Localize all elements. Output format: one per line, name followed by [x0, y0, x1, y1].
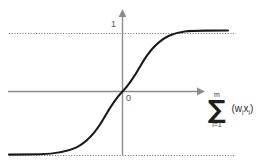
- close-paren: ): [250, 103, 253, 114]
- summation-body: (wixi): [230, 102, 253, 117]
- y-tick-label-one: 1: [111, 20, 116, 29]
- summation-operator: m ∑ i=1: [208, 91, 226, 128]
- sigmoid-curve: [9, 31, 228, 155]
- origin-label: 0: [126, 94, 131, 103]
- sigma-icon: ∑: [208, 98, 226, 121]
- summation-lower-limit: i=1: [212, 121, 222, 128]
- sigmoid-plot-figure: 1 0 m ∑ i=1 (wixi): [0, 0, 259, 166]
- weight-symbol: w: [235, 103, 242, 114]
- y-axis-arrowhead-icon: [119, 9, 127, 17]
- x-axis-title: m ∑ i=1 (wixi): [208, 91, 253, 128]
- plot-canvas: [0, 0, 259, 166]
- x-axis-arrowhead-icon: [197, 88, 205, 96]
